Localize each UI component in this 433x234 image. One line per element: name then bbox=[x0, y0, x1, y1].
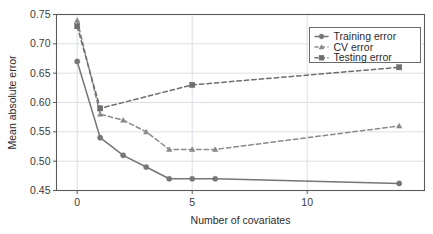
data-point-marker bbox=[121, 153, 126, 158]
data-point-marker bbox=[98, 106, 103, 111]
y-tick-label: 0.50 bbox=[30, 155, 51, 167]
data-point-marker bbox=[319, 55, 324, 60]
data-point-marker bbox=[121, 118, 126, 123]
x-axis-title: Number of covariates bbox=[191, 214, 291, 226]
line-chart: 0.450.500.550.600.650.700.750510 Number … bbox=[0, 0, 433, 234]
data-point-marker bbox=[190, 176, 195, 181]
y-tick-label: 0.45 bbox=[30, 184, 51, 196]
legend-label: Testing error bbox=[334, 51, 393, 63]
y-tick-label: 0.70 bbox=[30, 37, 51, 49]
data-point-marker bbox=[75, 18, 80, 23]
data-point-marker bbox=[98, 135, 103, 140]
y-axis-title: Mean absolute error bbox=[6, 55, 18, 149]
x-tick-label: 10 bbox=[301, 196, 313, 208]
data-point-marker bbox=[397, 65, 402, 70]
data-point-marker bbox=[167, 176, 172, 181]
y-tick-label: 0.75 bbox=[30, 8, 51, 20]
y-tick-label: 0.60 bbox=[30, 96, 51, 108]
data-point-marker bbox=[75, 24, 80, 29]
y-tick-label: 0.55 bbox=[30, 125, 51, 137]
x-tick-label: 0 bbox=[74, 196, 80, 208]
data-point-marker bbox=[190, 82, 195, 87]
chart-figure: 0.450.500.550.600.650.700.750510 Number … bbox=[0, 0, 433, 234]
data-point-marker bbox=[319, 34, 324, 39]
data-point-marker bbox=[75, 59, 80, 64]
y-tick-label: 0.65 bbox=[30, 67, 51, 79]
axis-ticks bbox=[53, 15, 307, 195]
chart-legend: Training errorCV errorTesting error bbox=[310, 28, 421, 64]
data-point-marker bbox=[213, 176, 218, 181]
x-tick-label: 5 bbox=[189, 196, 195, 208]
data-point-marker bbox=[144, 164, 149, 169]
data-point-marker bbox=[397, 181, 402, 186]
